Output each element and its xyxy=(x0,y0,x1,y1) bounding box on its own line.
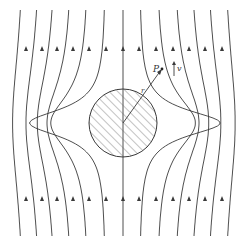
streamline xyxy=(47,10,69,236)
flow-arrow-up-icon xyxy=(40,46,44,51)
flow-arrow-up-icon xyxy=(24,46,28,51)
flow-arrow-up-icon xyxy=(55,46,59,51)
streamline xyxy=(26,10,37,236)
streamline xyxy=(159,10,195,236)
flow-diagram: P r v xyxy=(0,0,239,247)
flow-arrow-up-icon xyxy=(104,196,108,201)
flow-arrow-up-icon xyxy=(187,46,191,51)
label-v: v xyxy=(177,64,182,73)
flow-arrow-up-icon xyxy=(71,196,75,201)
flow-arrow-up-icon xyxy=(87,46,91,51)
streamline xyxy=(228,10,235,236)
flow-arrow-up-icon xyxy=(171,196,175,201)
streamline xyxy=(51,10,86,236)
streamline xyxy=(211,10,221,236)
flow-arrow-up-icon xyxy=(121,46,125,51)
flow-arrow-up-icon xyxy=(87,196,91,201)
streamline xyxy=(37,10,52,236)
velocity-vector xyxy=(172,61,176,76)
flow-arrow-up-icon xyxy=(187,196,191,201)
flow-arrow-up-icon xyxy=(154,46,158,51)
streamline xyxy=(194,10,209,236)
flow-arrow-up-icon xyxy=(121,196,125,201)
flow-arrow-up-icon xyxy=(40,196,44,201)
streamline xyxy=(13,10,21,236)
flow-arrow-up-icon xyxy=(137,196,141,201)
flow-arrow-up-icon xyxy=(154,196,158,201)
label-P: P xyxy=(152,64,160,74)
point-P-marker xyxy=(161,68,164,71)
streamline-figure: P r v xyxy=(0,0,239,247)
velocity-arrowhead-icon xyxy=(172,61,176,65)
flow-arrow-up-icon xyxy=(104,46,108,51)
flow-arrow-up-icon xyxy=(71,46,75,51)
flow-arrow-up-icon xyxy=(220,46,224,51)
flow-arrow-up-icon xyxy=(220,196,224,201)
flow-arrow-up-icon xyxy=(55,196,59,201)
flow-arrow-up-icon xyxy=(24,196,28,201)
flow-arrow-up-icon xyxy=(203,196,207,201)
flow-arrow-up-icon xyxy=(137,46,141,51)
flow-arrow-up-icon xyxy=(171,46,175,51)
flow-arrow-up-icon xyxy=(203,46,207,51)
